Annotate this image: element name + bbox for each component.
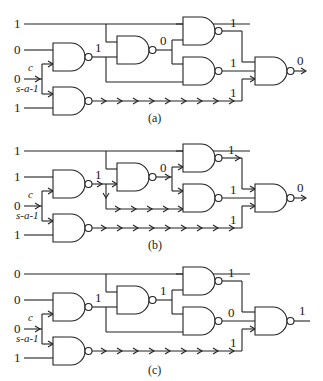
g1-output-value: 1 <box>95 167 102 182</box>
final-output-value: 0 <box>297 53 304 68</box>
top-right-output-value: 1 <box>228 265 235 280</box>
fault-site-label: c <box>28 188 33 200</box>
panel-c: 0 0 0 1 c s-a-1 1 1 1 0 1 1 (c) <box>14 265 310 377</box>
bottom-right-output-value: 0 <box>228 305 235 320</box>
g1-output-value: 1 <box>95 40 102 55</box>
fault-type-label: s-a-1 <box>16 209 39 221</box>
bottom-right-output-value: 1 <box>230 182 237 197</box>
g1-output-value: 1 <box>95 290 102 305</box>
panel-caption: (b) <box>148 238 162 252</box>
final-output-value: 1 <box>299 303 306 318</box>
low-path-value: 1 <box>230 85 237 100</box>
fault-type-label: s-a-1 <box>16 332 39 344</box>
low-path-value: 1 <box>230 212 237 227</box>
input-label: 1 <box>14 169 21 184</box>
panel-caption: (c) <box>148 363 161 377</box>
panel-b: 1 1 0 1 c s-a-1 1 0 1 1 1 0 (b) <box>14 142 306 252</box>
mid-output-value: 1 <box>160 283 167 298</box>
input-label: 0 <box>14 42 21 57</box>
fault-type-label: s-a-1 <box>16 82 39 94</box>
input-label: 1 <box>14 350 21 365</box>
mid-output-value: 0 <box>160 160 167 175</box>
bottom-right-output-value: 1 <box>230 55 237 70</box>
fault-site-label: c <box>28 61 33 73</box>
input-label: 1 <box>14 16 21 31</box>
circuit-diagram: 1 0 0 1 c s-a-1 1 0 1 1 1 0 (a) <box>0 0 323 381</box>
fault-site-label: c <box>28 311 33 323</box>
low-path-value: 1 <box>230 335 237 350</box>
input-label: 0 <box>14 266 21 281</box>
mid-output-value: 0 <box>160 33 167 48</box>
panel-caption: (a) <box>148 111 161 125</box>
panel-a: 1 0 0 1 c s-a-1 1 0 1 1 1 0 (a) <box>14 15 306 125</box>
input-label: 0 <box>14 292 21 307</box>
top-right-output-value: 1 <box>228 142 235 157</box>
input-label: 1 <box>14 100 21 115</box>
top-right-output-value: 1 <box>230 15 237 30</box>
input-label: 1 <box>14 227 21 242</box>
final-output-value: 0 <box>297 180 304 195</box>
input-label: 1 <box>14 143 21 158</box>
